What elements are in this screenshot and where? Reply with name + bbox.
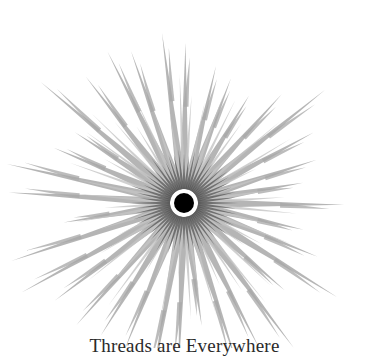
center-dot bbox=[174, 193, 194, 213]
figure-caption: Threads are Everywhere bbox=[0, 335, 369, 357]
